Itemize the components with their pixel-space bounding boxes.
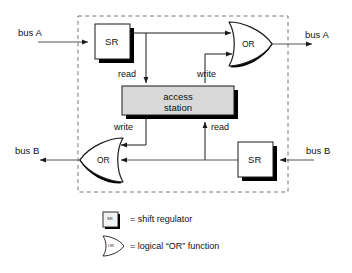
access-station-line2: station [143, 102, 213, 114]
bus-b-output-label: bus B [15, 146, 39, 156]
legend-sr-text: = shift regulator [130, 215, 192, 224]
legend-sr-symbol: SR [107, 217, 113, 221]
or-bottom-label: OR [97, 156, 110, 165]
or-top-label: OR [242, 40, 255, 49]
signal-write-bottom-label: write [114, 123, 133, 132]
legend-or-symbol: OR [108, 244, 114, 248]
signal-write-top-label: write [197, 70, 216, 79]
bus-a-input-label: bus A [18, 28, 42, 38]
signal-read-bottom-label: read [211, 123, 229, 132]
sr-top-label: SR [105, 37, 119, 47]
bus-b-input-label: bus B [306, 146, 330, 156]
sr-bottom-label: SR [248, 155, 262, 165]
diagram-vector-layer [0, 0, 352, 273]
diagram-canvas: bus A bus A bus B bus B SR SR OR OR acce… [0, 0, 352, 273]
access-station-line1: access [143, 91, 213, 103]
bus-a-output-label: bus A [305, 30, 329, 40]
legend-or-text: = logical “OR” function [130, 242, 219, 251]
signal-read-top-label: read [118, 70, 136, 79]
